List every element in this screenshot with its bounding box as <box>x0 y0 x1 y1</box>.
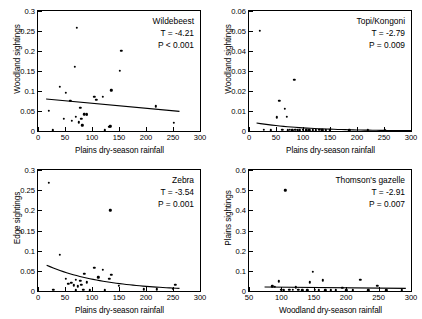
y-tick-label: 0.3 <box>235 226 246 235</box>
x-tick-label: 300 <box>405 293 418 302</box>
t-statistic: T = -2.91 <box>335 186 405 198</box>
plot-area: 05010015020025030000.010.020.030.040.050… <box>248 10 412 132</box>
y-tick-label: 0.1 <box>24 246 35 255</box>
x-tick-label: 100 <box>86 133 99 142</box>
y-tick <box>38 291 42 292</box>
x-tick-label: 50 <box>245 293 253 302</box>
x-tick-label: 50 <box>61 293 69 302</box>
y-tick-label: 0.05 <box>231 26 246 35</box>
panel-annotation: Thomson's gazelle T = -2.91 P = 0.007 <box>335 174 405 211</box>
t-statistic: T = -2.79 <box>357 27 405 39</box>
y-tick-label: 0.15 <box>20 67 35 76</box>
four-panel-scatter-figure: Woodland sightings Plains dry-season rai… <box>0 0 422 319</box>
x-tick-label: 150 <box>307 293 320 302</box>
y-axis-title: Edge sightings <box>13 159 24 277</box>
x-tick <box>200 127 201 131</box>
y-tick-label: 0 <box>31 287 35 296</box>
t-statistic: T = -4.21 <box>153 27 194 39</box>
x-tick-label: 100 <box>275 293 288 302</box>
panel-title: Topi/Kongoni <box>357 15 405 27</box>
y-tick-label: 0.4 <box>235 206 246 215</box>
y-tick-label: 0.01 <box>231 107 246 116</box>
x-tick-label: 250 <box>167 293 180 302</box>
panel-topi-kongoni: Woodland sightings Plains dry-season rai… <box>211 0 422 159</box>
x-tick-label: 300 <box>194 293 207 302</box>
y-tick-label: 0.5 <box>235 186 246 195</box>
panel-title: Wildebeest <box>153 15 194 27</box>
y-tick-label: 0.2 <box>235 246 246 255</box>
x-axis-title: Plains dry-season rainfall <box>36 146 203 155</box>
y-axis-title: Woodland sightings <box>224 0 235 118</box>
y-tick-label: 0 <box>242 127 246 136</box>
x-tick-label: 300 <box>405 133 418 142</box>
y-tick-label: 0.03 <box>231 67 246 76</box>
panel-title: Thomson's gazelle <box>335 174 405 186</box>
x-tick-label: 100 <box>86 293 99 302</box>
y-tick-label: 0.05 <box>20 266 35 275</box>
y-tick-label: 0.1 <box>235 266 246 275</box>
y-tick-label: 0.25 <box>20 26 35 35</box>
x-tick-label: 200 <box>351 133 364 142</box>
x-tick-label: 200 <box>140 293 153 302</box>
x-tick-label: 200 <box>340 293 353 302</box>
x-tick-label: 100 <box>297 133 310 142</box>
panel-wildebeest: Woodland sightings Plains dry-season rai… <box>0 0 211 159</box>
panel-annotation: Zebra T = -3.54 P = 0.001 <box>158 174 194 211</box>
y-tick-label: 0.1 <box>24 86 35 95</box>
y-tick-label: 0.02 <box>231 86 246 95</box>
x-tick-label: 300 <box>194 133 207 142</box>
y-tick-label: 0 <box>31 127 35 136</box>
x-tick-label: 150 <box>324 133 337 142</box>
x-tick-label: 150 <box>113 133 126 142</box>
x-tick-label: 0 <box>36 293 40 302</box>
y-tick <box>38 131 42 132</box>
x-axis-title: Plains dry-season rainfall <box>36 306 203 315</box>
x-tick-label: 250 <box>378 133 391 142</box>
x-tick-label: 250 <box>372 293 385 302</box>
panel-zebra: Edge sightings Plains dry-season rainfal… <box>0 159 211 319</box>
p-value: P = 0.009 <box>357 39 405 51</box>
y-tick-label: 0.3 <box>24 7 35 16</box>
plot-area: 05010015020025030000.050.10.150.20.250.3… <box>37 169 201 292</box>
y-tick-label: 0.25 <box>20 186 35 195</box>
x-tick-label: 50 <box>272 133 280 142</box>
y-tick-label: 0.2 <box>24 206 35 215</box>
y-tick-label: 0.05 <box>20 107 35 116</box>
x-tick-label: 150 <box>113 293 126 302</box>
panel-title: Zebra <box>158 174 194 186</box>
y-tick-label: 0.2 <box>24 46 35 55</box>
y-tick-label: 0 <box>242 287 246 296</box>
x-tick <box>411 287 412 291</box>
y-axis-title: Plains sightings <box>224 159 235 277</box>
y-tick <box>249 131 253 132</box>
panel-annotation: Topi/Kongoni T = -2.79 P = 0.009 <box>357 15 405 52</box>
panel-thomsons-gazelle: Plains sightings Woodland dry-season rai… <box>211 159 422 319</box>
panel-annotation: Wildebeest T = -4.21 P < 0.001 <box>153 15 194 52</box>
y-tick-label: 0.15 <box>20 226 35 235</box>
x-tick <box>411 127 412 131</box>
x-axis-title: Plains dry-season rainfall <box>247 146 414 155</box>
y-tick-label: 0.04 <box>231 46 246 55</box>
plot-area: 5010015020025030000.10.20.30.40.50.6 Tho… <box>248 169 412 292</box>
y-tick-label: 0.6 <box>235 166 246 175</box>
y-axis-title: Woodland sightings <box>13 0 24 118</box>
x-tick-label: 50 <box>61 133 69 142</box>
y-tick-label: 0.3 <box>24 166 35 175</box>
x-tick-label: 250 <box>167 133 180 142</box>
x-tick <box>200 287 201 291</box>
x-tick-label: 0 <box>247 133 251 142</box>
p-value: P = 0.001 <box>158 198 194 210</box>
y-tick-label: 0.06 <box>231 7 246 16</box>
y-tick <box>249 291 253 292</box>
p-value: P < 0.001 <box>153 39 194 51</box>
x-tick-label: 0 <box>36 133 40 142</box>
t-statistic: T = -3.54 <box>158 186 194 198</box>
x-tick-label: 200 <box>140 133 153 142</box>
plot-area: 05010015020025030000.050.10.150.20.250.3… <box>37 10 201 132</box>
p-value: P = 0.007 <box>335 198 405 210</box>
x-axis-title: Woodland dry-season rainfall <box>247 306 414 315</box>
